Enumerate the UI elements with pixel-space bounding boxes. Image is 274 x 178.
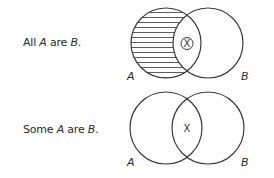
intersection-mark: X: [184, 38, 191, 49]
venn-diagrams: X A B X A B: [0, 0, 274, 178]
venn-diagram-some: X A B: [126, 92, 249, 169]
intersection-mark: X: [184, 123, 191, 134]
circle-a: [130, 92, 202, 164]
label-b: B: [241, 156, 249, 169]
label-a: A: [126, 156, 135, 169]
label-a: A: [126, 70, 135, 83]
label-b: B: [241, 70, 249, 83]
shaded-region-a-only: [120, 0, 220, 90]
venn-diagram-all: X A B: [120, 0, 249, 90]
